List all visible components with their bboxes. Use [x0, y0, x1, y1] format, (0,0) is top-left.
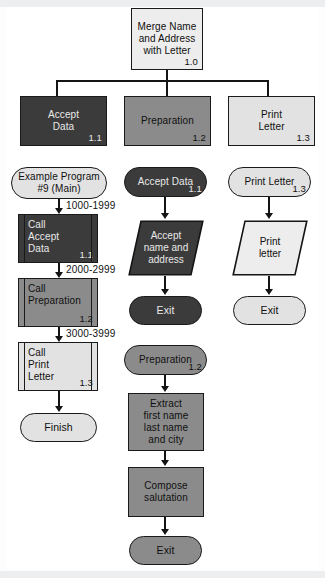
arrow-main-4: [55, 406, 63, 412]
terminal-label: Exit: [157, 304, 175, 316]
connector-bus-horizontal: [56, 80, 269, 82]
terminal-accept-data-exit[interactable]: Exit: [129, 296, 202, 325]
terminal-id: 1.3: [292, 183, 306, 194]
node-id: 1.2: [192, 132, 206, 143]
process-id: 1.1: [79, 249, 93, 260]
process-label-line: Letter: [19, 371, 54, 383]
process-call-print-letter[interactable]: Call Print Letter 1.3: [18, 342, 98, 391]
node-merge-name-address[interactable]: Merge Name and Address with Letter 1.0: [131, 8, 203, 70]
process-label-line: Compose: [144, 480, 188, 492]
arrow-acceptdata-1: [161, 213, 169, 219]
node-print-letter[interactable]: Print Letter 1.3: [228, 96, 315, 146]
terminal-label: Preparation: [139, 354, 192, 366]
terminal-example-program-start[interactable]: Example Program #9 (Main): [11, 167, 107, 199]
process-extract-names[interactable]: Extract first name last name and city: [128, 393, 204, 451]
arrow-preparation-2: [161, 460, 169, 466]
process-label-line: Call: [19, 347, 46, 359]
terminal-label: Exit: [261, 304, 279, 316]
connector-drop-print-letter: [267, 80, 269, 96]
process-label-line: last name: [144, 422, 188, 434]
node-label-line: Accept: [48, 109, 79, 121]
arrow-printletter-2: [265, 289, 273, 295]
node-label-line: Data: [53, 121, 75, 133]
connector-trunk-vertical: [166, 70, 168, 96]
node-id: 1.1: [88, 132, 102, 143]
arrow-printletter-1: [265, 213, 273, 219]
node-label-line: Preparation: [141, 115, 194, 127]
process-label-line: Call: [19, 219, 46, 231]
process-label-line: Data: [19, 243, 50, 255]
process-label-line: Call: [19, 283, 46, 295]
terminal-print-letter-start[interactable]: Print Letter 1.3: [228, 167, 311, 197]
process-label-line: Extract: [150, 398, 182, 410]
process-label-line: salutation: [144, 492, 188, 504]
node-accept-data[interactable]: Accept Data 1.1: [20, 96, 107, 146]
node-preparation[interactable]: Preparation 1.2: [124, 96, 211, 146]
terminal-id: 1.2: [188, 361, 202, 372]
process-id: 1.3: [79, 377, 93, 388]
terminal-print-letter-exit[interactable]: Exit: [233, 296, 306, 325]
terminal-accept-data-start[interactable]: Accept Data 1.1: [124, 167, 207, 197]
io-label-line: Accept: [144, 230, 188, 242]
node-id: 1.0: [184, 56, 198, 67]
terminal-label-line: #9 (Main): [37, 183, 80, 195]
arrow-preparation-3: [161, 529, 169, 535]
page-bottom-edge: [0, 571, 325, 578]
process-call-preparation[interactable]: Call Preparation 1.2: [18, 278, 98, 327]
arrow-preparation-1: [161, 386, 169, 392]
node-label-line: and Address: [139, 33, 196, 45]
node-id: 1.3: [296, 132, 310, 143]
diagram-canvas: Merge Name and Address with Letter 1.0 A…: [0, 0, 325, 578]
terminal-label: Print Letter: [244, 176, 294, 188]
process-compose-salutation[interactable]: Compose salutation: [128, 467, 204, 517]
page-left-margin: [0, 7, 7, 571]
line-range-label: 1000-1999: [66, 200, 116, 211]
page-top-edge: [0, 0, 325, 7]
node-label-line: Letter: [258, 121, 284, 133]
line-range-label: 3000-3999: [66, 328, 116, 339]
terminal-label: Exit: [157, 544, 175, 556]
io-label-line: Print: [259, 236, 281, 248]
terminal-preparation-exit[interactable]: Exit: [129, 536, 202, 565]
io-label-line: address: [144, 254, 188, 266]
process-label-line: first name: [144, 410, 189, 422]
io-label-line: letter: [259, 248, 281, 260]
terminal-label: Finish: [44, 421, 73, 433]
arrow-acceptdata-2: [161, 289, 169, 295]
terminal-label-line: Example Program: [18, 171, 100, 183]
terminal-preparation-start[interactable]: Preparation 1.2: [124, 345, 207, 375]
io-accept-name-and-address[interactable]: Accept name and address: [128, 220, 204, 276]
process-label-line: Preparation: [19, 295, 81, 307]
process-label-line: Print: [19, 359, 49, 371]
process-call-accept-data[interactable]: Call Accept Data 1.1: [18, 214, 98, 263]
page-right-margin: [318, 7, 325, 571]
process-label-line: Accept: [19, 231, 59, 243]
line-range-label: 2000-2999: [66, 264, 116, 275]
connector-drop-accept-data: [56, 80, 58, 96]
terminal-finish[interactable]: Finish: [20, 413, 97, 442]
io-print-letter[interactable]: Print letter: [232, 220, 308, 276]
process-id: 1.2: [79, 313, 93, 324]
terminal-id: 1.1: [188, 183, 202, 194]
process-label-line: and city: [148, 434, 183, 446]
io-label-line: name and: [144, 242, 188, 254]
node-label-line: Merge Name: [138, 21, 197, 33]
node-label-line: Print: [261, 109, 282, 121]
terminal-label: Accept Data: [138, 176, 194, 188]
